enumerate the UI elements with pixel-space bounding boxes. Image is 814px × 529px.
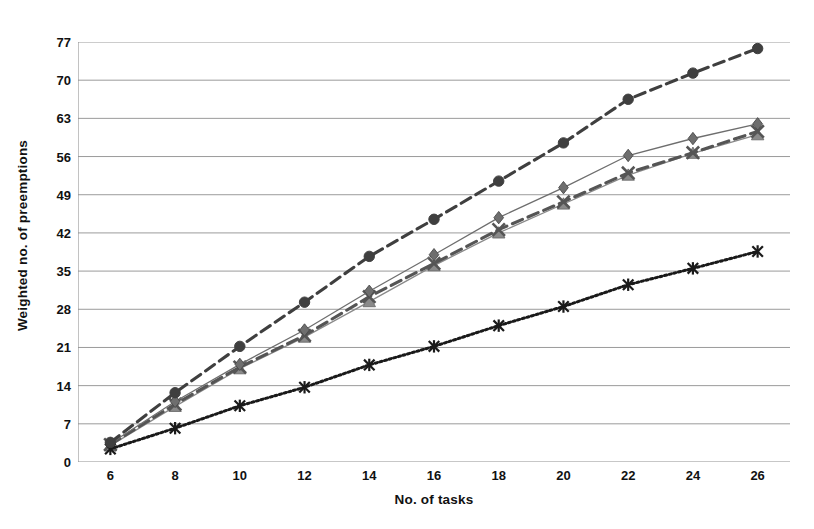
y-tick-label: 0 <box>34 455 78 470</box>
data-point-circle <box>235 341 245 351</box>
data-point-circle <box>170 388 180 398</box>
x-tick-label: 24 <box>686 468 700 483</box>
x-tick-label: 6 <box>107 468 114 483</box>
data-point-circle <box>494 176 504 186</box>
y-tick-label: 14 <box>34 378 78 393</box>
data-point-circle <box>299 297 309 307</box>
x-tick-label: 16 <box>427 468 441 483</box>
x-tick-label: 18 <box>491 468 505 483</box>
data-point-circle <box>364 251 374 261</box>
data-point-diamond <box>364 285 374 297</box>
data-point-circle <box>623 94 633 104</box>
data-point-circle <box>105 437 115 447</box>
data-point-diamond <box>494 211 504 223</box>
y-tick-label: 35 <box>34 264 78 279</box>
series-line <box>110 124 757 444</box>
x-tick-label: 14 <box>362 468 376 483</box>
data-point-circle <box>558 138 568 148</box>
y-tick-label: 77 <box>34 35 78 50</box>
chart-figure: Weighted no. of preemptions 071421283542… <box>0 0 814 529</box>
x-axis-title: No. of tasks <box>78 492 790 507</box>
y-tick-label: 56 <box>34 149 78 164</box>
data-point-circle <box>752 43 762 53</box>
y-tick-label: 49 <box>34 187 78 202</box>
plot-area <box>78 42 790 462</box>
data-point-diamond <box>623 149 633 161</box>
y-tick-label: 42 <box>34 225 78 240</box>
series-line <box>110 132 757 445</box>
series-triangle <box>104 129 764 451</box>
x-tick-label: 20 <box>556 468 570 483</box>
data-point-diamond <box>559 181 569 193</box>
series-line <box>110 135 757 446</box>
series-diamond <box>106 118 763 450</box>
y-axis-tick-labels: 0714212835424956637077 <box>22 0 78 529</box>
x-tick-label: 10 <box>233 468 247 483</box>
data-point-diamond <box>688 132 698 144</box>
x-tick-label: 8 <box>171 468 178 483</box>
y-tick-label: 21 <box>34 340 78 355</box>
y-tick-label: 70 <box>34 73 78 88</box>
y-tick-label: 63 <box>34 111 78 126</box>
data-point-circle <box>429 214 439 224</box>
data-point-circle <box>688 68 698 78</box>
x-tick-label: 22 <box>621 468 635 483</box>
series-x <box>104 125 764 450</box>
x-tick-label: 12 <box>297 468 311 483</box>
y-tick-label: 28 <box>34 302 78 317</box>
x-tick-label: 26 <box>750 468 764 483</box>
y-tick-label: 7 <box>34 416 78 431</box>
chart-svg <box>78 42 790 462</box>
